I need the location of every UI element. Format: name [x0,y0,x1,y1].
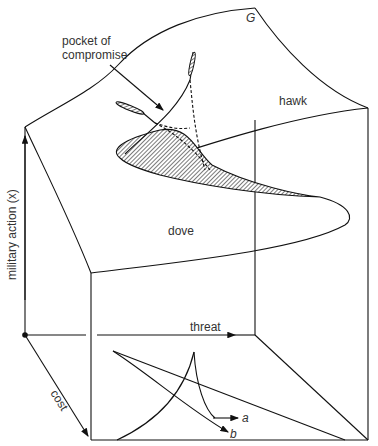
path-a-label: a [242,411,249,425]
origin-dot [22,332,28,338]
base-right-diagonal [255,335,368,440]
path-line-a [113,351,345,440]
surface-right-edge [255,8,368,108]
path-line-b [113,351,228,432]
dove-sheet-edge [91,197,350,273]
cusp-right-branch [194,352,215,418]
surface-top-edge [25,8,255,127]
pocket-ellipse-left [115,100,145,116]
military-action-label: military action (x) [5,189,19,280]
pocket-connector [143,113,155,123]
surface-label-g: G [246,11,255,25]
fold-hatched-region [116,129,320,197]
path-b-label: b [230,427,237,441]
hawk-label: hawk [279,94,308,108]
pocket-ellipse-upper [188,52,197,76]
cost-axis [25,335,88,436]
cost-label: cost [47,387,71,414]
pocket-label-line1: pocket of [62,34,111,48]
cusp-catastrophe-diagram: G pocket of compromise hawk dove threat … [0,0,378,446]
pocket-label-line2: compromise [62,48,128,62]
diagram-canvas: G pocket of compromise hawk dove threat … [0,0,378,446]
dove-label: dove [168,224,194,238]
cusp-left-branch [117,352,194,440]
surface-left-edge [25,127,91,273]
threat-label: threat [190,320,221,334]
